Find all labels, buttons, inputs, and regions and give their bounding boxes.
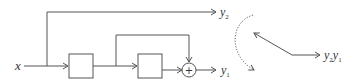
y2-path-arrow [47,12,216,66]
feedforward-arrow [116,35,189,66]
dotted-transform-arrow [235,15,254,70]
block-diagram: x + y2 y1 y2y1 [0,0,361,83]
block-1 [69,54,93,78]
block-2 [138,54,162,78]
output-y1-label: y1 [220,63,230,79]
output-y2-label: y2 [219,5,229,21]
result-label: y2y1 [323,48,342,64]
input-x-label: x [14,58,21,73]
diagonal-arrow [254,33,292,55]
plus-icon: + [185,65,193,76]
